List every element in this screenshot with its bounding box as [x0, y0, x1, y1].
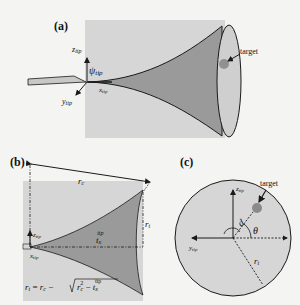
- panel-b: (b) rc ztip xtip txtip rt rt = rc −: [10, 155, 151, 301]
- z-axis-label: ztip: [71, 45, 81, 54]
- target-marker-c: [252, 203, 262, 213]
- rc-label: rc: [78, 176, 85, 186]
- panel-c: (c) target ztip ytip d θ rt: [175, 155, 291, 296]
- panel-c-label: (c): [180, 155, 193, 169]
- svg-text:rt = rc −: rt = rc −: [25, 282, 53, 292]
- rc-arrow: [31, 164, 150, 182]
- theta-label: θ: [253, 225, 258, 236]
- panel-b-label: (b): [10, 155, 25, 169]
- y-axis-label: ytip: [61, 97, 72, 106]
- panel-a-label: (a): [54, 19, 68, 33]
- catheter-shaft: [28, 76, 86, 85]
- target-marker: [219, 59, 229, 69]
- panel-a: (a) target ztip ψtip xtip ytip: [28, 19, 259, 138]
- target-label-c: target: [260, 179, 279, 188]
- figure: (a) target ztip ψtip xtip ytip (b): [0, 0, 300, 305]
- rc-to-tip-dashed: [143, 182, 150, 192]
- target-label: target: [240, 47, 259, 56]
- rt-label-b: rt: [145, 219, 151, 229]
- cone-face: [217, 25, 241, 137]
